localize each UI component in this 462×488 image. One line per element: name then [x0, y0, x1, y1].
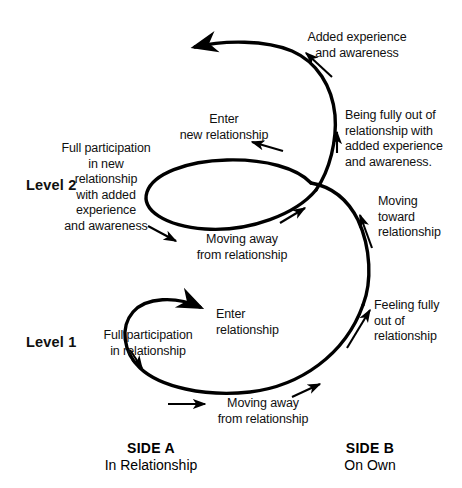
annotation-full-participation-new: Full participation in new relationship w…	[58, 141, 154, 234]
diagram-canvas: Added experience and awareness Being ful…	[0, 0, 462, 488]
annotation-added-experience: Added experience and awareness	[286, 30, 428, 61]
side-a-title: SIDE A	[86, 440, 216, 457]
annotation-feeling-fully-out: Feeling fully out of relationship	[374, 298, 462, 345]
annotation-moving-away-upper: Moving away from relationship	[186, 232, 298, 263]
side-b-title: SIDE B	[310, 440, 430, 457]
level2-inner-loop-path	[146, 160, 316, 229]
level1-outer-right-path	[311, 183, 369, 305]
annotation-moving-away-lower: Moving away from relationship	[204, 396, 322, 427]
annotation-being-fully-out: Being fully out of relationship with add…	[345, 108, 461, 170]
annotation-moving-toward: Moving toward relationship	[378, 194, 462, 241]
side-b-subtitle: On Own	[310, 457, 430, 474]
annotation-enter-new-relationship: Enter new relationship	[152, 112, 296, 143]
annotation-enter-relationship: Enter relationship	[216, 307, 312, 338]
level-1-label: Level 1	[26, 335, 88, 351]
arrow-enter-new-relationship	[252, 142, 283, 151]
side-a-subtitle: In Relationship	[76, 457, 226, 474]
annotation-full-participation: Full participation in relationship	[88, 328, 208, 359]
